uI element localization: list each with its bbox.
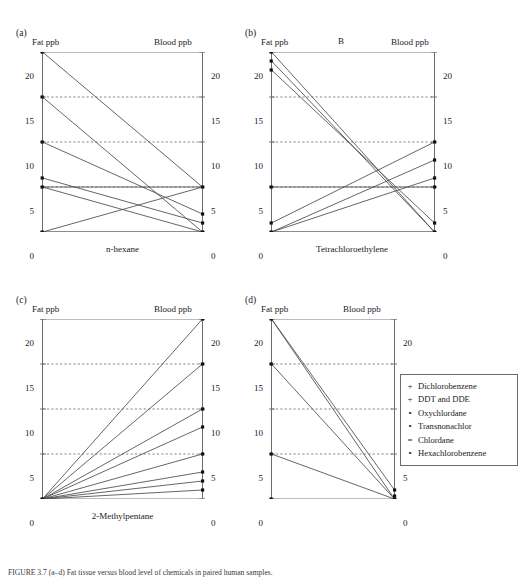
panel-b-ytick-20: 20	[243, 71, 263, 81]
panel-c-ytick-10: 10	[14, 428, 34, 438]
figure-caption: FIGURE 3.7 (a–d) Fat tissue versus blood…	[8, 568, 518, 579]
panel-a-tag: (a)	[16, 28, 27, 38]
panel-c-right-axis-title: Blood ppb	[154, 304, 192, 314]
panel-c-tag: (c)	[16, 295, 27, 305]
panel-b: (b) Fat ppb B Blood ppb	[243, 28, 481, 258]
panel-b-ytick-r-10: 10	[443, 161, 452, 171]
panel-a-ytick-r-10: 10	[211, 161, 220, 171]
panel-d-ytick-20: 20	[243, 338, 263, 348]
panel-d-ytick-0: 0	[243, 518, 263, 528]
panel-a-ytick-r-5: 5	[211, 206, 216, 216]
panel-d-left-axis-title: Fat ppb	[261, 304, 288, 314]
panel-d-tag: (d)	[245, 295, 256, 305]
panel-d: (d) Fat ppb Blood ppb	[243, 295, 423, 525]
legend-marker-dot-icon: •	[406, 447, 414, 460]
panel-a-ytick-15: 15	[14, 116, 34, 126]
panel-a-caption: n-hexane	[40, 244, 205, 254]
panel-a-ytick-10: 10	[14, 161, 34, 171]
panel-c: (c) Fat ppb Blood ppb	[14, 295, 246, 525]
panel-b-ytick-15: 15	[243, 116, 263, 126]
panel-b-svg	[269, 52, 437, 232]
panel-b-ytick-r-5: 5	[443, 206, 448, 216]
panel-a-ytick-r-20: 20	[211, 71, 220, 81]
panel-a-plot	[40, 52, 205, 232]
panel-d-svg	[269, 319, 397, 499]
panel-a-svg	[40, 52, 205, 232]
legend-label: Chlordane	[418, 434, 454, 447]
legend-label: Transnonachlor	[418, 420, 472, 433]
panel-d-ytick-5: 5	[243, 473, 263, 483]
panel-d-ytick-r-20: 20	[403, 338, 412, 348]
legend-item-transnonachlor: • Transnonachlor	[406, 420, 510, 433]
legend-item-oxychlordane: • Oxychlordane	[406, 407, 510, 420]
panel-a: (a) Fat ppb Blood ppb	[14, 28, 246, 258]
panel-a-ytick-20: 20	[14, 71, 34, 81]
legend-label: DDT and DDE	[418, 393, 470, 406]
panel-b-plot	[269, 52, 437, 232]
panel-a-left-axis-title: Fat ppb	[32, 37, 59, 47]
panel-c-ytick-r-0: 0	[211, 518, 216, 528]
panel-c-ytick-0: 0	[14, 518, 34, 528]
legend-label: Dichlorobenzene	[418, 380, 477, 393]
panel-d-ytick-r-5: 5	[403, 473, 408, 483]
legend-marker-plus-icon: +	[406, 380, 414, 393]
legend-label: Oxychlordane	[418, 407, 467, 420]
panel-b-ytick-10: 10	[243, 161, 263, 171]
legend-marker-dot-icon: •	[406, 407, 414, 420]
panel-b-tag: (b)	[245, 28, 256, 38]
panel-b-caption: Tetrachloroethylene	[261, 244, 443, 254]
legend-label: Hexachlorobenzene	[418, 447, 486, 460]
legend: + Dichlorobenzene + DDT and DDE • Oxychl…	[400, 374, 518, 466]
panel-c-plot	[40, 319, 205, 499]
legend-item-dichlorobenzene: + Dichlorobenzene	[406, 380, 510, 393]
legend-item-hexachlorobenzene: • Hexachlorobenzene	[406, 447, 510, 460]
panel-c-svg	[40, 319, 205, 499]
panel-c-left-axis-title: Fat ppb	[32, 304, 59, 314]
panel-c-ytick-r-20: 20	[211, 338, 220, 348]
panel-b-ytick-5: 5	[243, 206, 263, 216]
panel-c-ytick-20: 20	[14, 338, 34, 348]
panel-c-ytick-5: 5	[14, 473, 34, 483]
legend-item-chlordane: = Chlordane	[406, 434, 510, 447]
legend-marker-dot-icon: •	[406, 420, 414, 433]
panel-d-ytick-15: 15	[243, 383, 263, 393]
panel-d-ytick-10: 10	[243, 428, 263, 438]
legend-item-ddt-and-dde: + DDT and DDE	[406, 393, 510, 406]
figure-root: (a) Fat ppb Blood ppb	[0, 0, 524, 579]
panel-d-ytick-r-0: 0	[403, 518, 408, 528]
panel-b-right-axis-title: Blood ppb	[391, 37, 429, 47]
panel-a-ytick-r-0: 0	[211, 251, 216, 261]
panel-b-left-axis-title: Fat ppb	[261, 37, 288, 47]
panel-b-ytick-r-20: 20	[443, 71, 452, 81]
panel-a-right-axis-title: Blood ppb	[154, 37, 192, 47]
legend-marker-plus-icon: +	[406, 393, 414, 406]
panel-c-caption: 2-Methylpentane	[40, 511, 205, 521]
panel-c-ytick-15: 15	[14, 383, 34, 393]
panel-a-ytick-0: 0	[14, 251, 34, 261]
legend-marker-equals-icon: =	[406, 434, 414, 447]
panel-d-plot	[269, 319, 397, 499]
panel-a-ytick-5: 5	[14, 206, 34, 216]
panel-b-ytick-r-0: 0	[443, 251, 448, 261]
panel-d-right-axis-title: Blood ppb	[343, 304, 381, 314]
panel-c-ytick-r-5: 5	[211, 473, 216, 483]
panel-a-ytick-r-15: 15	[211, 116, 220, 126]
panel-c-ytick-r-15: 15	[211, 383, 220, 393]
panel-b-ytick-0: 0	[243, 251, 263, 261]
panel-c-ytick-r-10: 10	[211, 428, 220, 438]
panel-b-stray-label: B	[338, 36, 344, 46]
panel-b-ytick-r-15: 15	[443, 116, 452, 126]
